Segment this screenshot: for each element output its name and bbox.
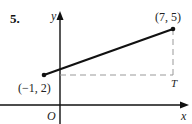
- x-axis-label: x: [180, 109, 187, 123]
- y-axis-arrow-icon: [57, 11, 64, 20]
- line-segment: [44, 29, 173, 75]
- point-b-label: (7, 5): [155, 10, 181, 24]
- problem-number: 5.: [10, 11, 20, 26]
- point-a-label: (−1, 2): [18, 81, 51, 95]
- origin-label: O: [47, 109, 56, 123]
- point-b: [171, 27, 176, 32]
- point-a: [42, 73, 47, 78]
- coordinate-diagram: 5. x y O T (−1, 2) (7, 5): [0, 0, 192, 124]
- diagram-canvas: 5. x y O T (−1, 2) (7, 5): [0, 0, 192, 124]
- corner-label: T: [171, 77, 178, 89]
- y-axis-label: y: [50, 9, 57, 23]
- x-axis-arrow-icon: [180, 102, 189, 109]
